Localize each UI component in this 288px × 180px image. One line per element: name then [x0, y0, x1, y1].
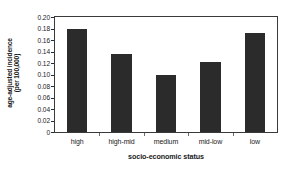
x-axis-tick-label-high-mid: high-mid	[99, 137, 143, 147]
y-axis-title-line-2: (per 100,000)	[13, 54, 21, 92]
bar-chart-figure: age-adjusted incidence (per 100,000) 00.…	[0, 0, 288, 180]
y-axis-tick-label: 0.12	[24, 60, 50, 67]
x-axis-tick-label-medium: medium	[144, 137, 188, 147]
x-axis-tick-mark	[144, 133, 145, 136]
y-axis-tick-label: 0.14	[24, 48, 50, 55]
x-axis-tick-label-low: low	[233, 137, 277, 147]
y-axis-tick-label: 0.06	[24, 94, 50, 101]
x-axis-tick-mark	[188, 133, 189, 136]
y-axis-title-line-1: age-adjusted incidence	[6, 38, 14, 108]
bars-container	[55, 17, 277, 132]
bar-high	[67, 29, 87, 133]
y-axis-tick-label: 0.18	[24, 25, 50, 32]
x-axis-tick-label-high: high	[55, 137, 99, 147]
y-axis-tick-label: 0.04	[24, 106, 50, 113]
x-axis-tick-label-mid-low: mid-low	[188, 137, 232, 147]
y-axis-tick-label: 0	[24, 129, 50, 136]
bar-low	[245, 33, 265, 132]
y-axis-tick-label: 0.08	[24, 83, 50, 90]
x-axis-title: socio-economic status	[54, 152, 278, 161]
y-axis-tick-label: 0.02	[24, 117, 50, 124]
x-axis-tick-mark	[233, 133, 234, 136]
bar-medium	[156, 75, 176, 133]
bar-high-mid	[111, 54, 131, 132]
y-axis-title: age-adjusted incidence (per 100,000)	[2, 18, 24, 128]
x-axis-tick-mark	[99, 133, 100, 136]
x-axis-tick-labels: highhigh-midmediummid-lowlow	[55, 137, 277, 149]
y-axis-tick-label: 0.16	[24, 37, 50, 44]
y-axis-tick-label: 0.10	[24, 71, 50, 78]
y-axis-tick-labels: 00.020.040.060.080.100.120.140.160.180.2…	[24, 16, 50, 133]
y-axis-tick-label: 0.20	[24, 14, 50, 21]
bar-mid-low	[200, 62, 220, 132]
